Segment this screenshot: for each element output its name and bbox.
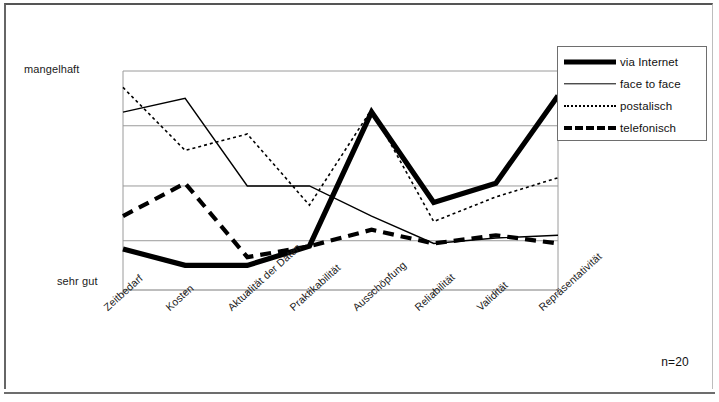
line-chart: mangelhaft sehr gut ZeitbedarfKostenAktu… — [0, 0, 719, 402]
legend-item-label: face to face — [620, 78, 681, 90]
legend-item-label: telefonisch — [620, 122, 676, 134]
y-axis-bottom-label: sehr gut — [57, 275, 98, 287]
line-thick-solid-icon — [564, 56, 616, 68]
legend-item: telefonisch — [558, 117, 706, 139]
sample-size-annotation: n=20 — [661, 355, 689, 369]
legend-item-label: via Internet — [620, 56, 678, 68]
line-thin-solid-icon — [564, 78, 616, 90]
legend-item: postalisch — [558, 95, 706, 117]
scanned-page: mangelhaft sehr gut ZeitbedarfKostenAktu… — [0, 0, 719, 402]
y-axis-top-label: mangelhaft — [24, 63, 79, 75]
chart-legend: via Internet face to face postalisch tel… — [557, 46, 707, 141]
legend-item: face to face — [558, 73, 706, 95]
line-dotted-icon — [564, 100, 616, 112]
series-line — [123, 183, 558, 257]
series-line — [123, 98, 558, 243]
line-dashed-icon — [564, 122, 616, 134]
legend-item-label: postalisch — [620, 100, 672, 112]
legend-item: via Internet — [558, 51, 706, 73]
